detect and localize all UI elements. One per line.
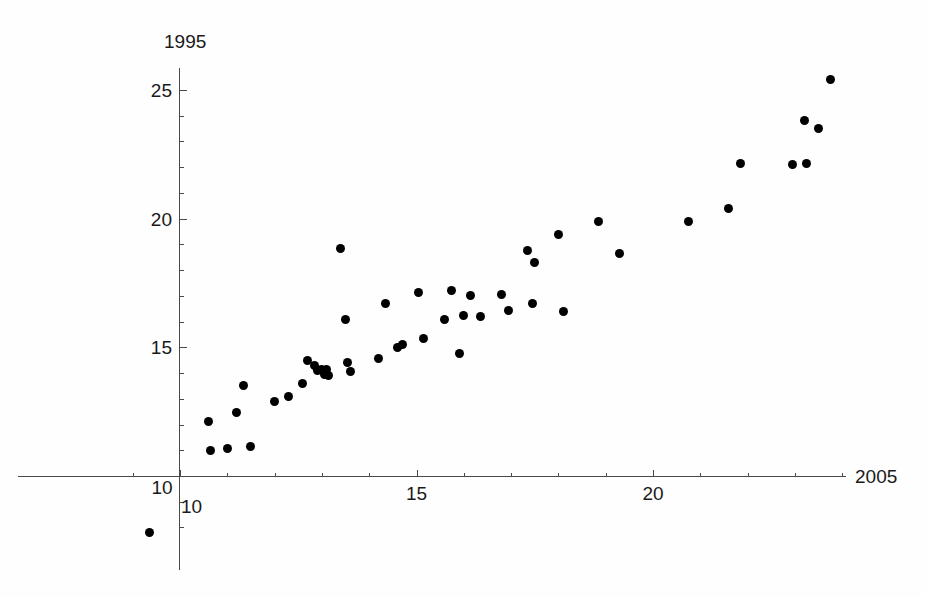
data-point: [341, 315, 350, 324]
data-point: [398, 340, 407, 349]
data-point: [324, 371, 333, 380]
data-point: [684, 217, 693, 226]
data-point: [814, 124, 823, 133]
data-point: [559, 307, 568, 316]
data-point: [528, 299, 537, 308]
data-point: [440, 315, 449, 324]
data-point: [374, 354, 383, 363]
data-point: [298, 379, 307, 388]
scatter-plot-figure: 10152010152025 1995 2005: [0, 0, 926, 597]
data-point: [459, 311, 468, 320]
data-point: [497, 290, 506, 299]
data-point: [346, 367, 355, 376]
data-point: [736, 159, 745, 168]
data-point: [554, 230, 563, 239]
data-point: [336, 244, 345, 253]
data-point: [246, 442, 255, 451]
data-point: [239, 381, 248, 390]
data-point: [447, 286, 456, 295]
data-point: [615, 249, 624, 258]
data-point: [419, 334, 428, 343]
data-point: [523, 246, 532, 255]
data-point: [381, 299, 390, 308]
data-point: [476, 312, 485, 321]
data-point: [594, 217, 603, 226]
data-point: [802, 159, 811, 168]
data-point: [826, 75, 835, 84]
data-point: [223, 444, 232, 453]
data-points-layer: [0, 0, 926, 597]
data-point: [232, 408, 241, 417]
data-point: [504, 306, 513, 315]
data-point: [414, 288, 423, 297]
data-point: [284, 392, 293, 401]
data-point: [343, 358, 352, 367]
data-point: [800, 116, 809, 125]
data-point: [455, 349, 464, 358]
data-point: [204, 417, 213, 426]
data-point: [724, 204, 733, 213]
data-point: [206, 446, 215, 455]
data-point: [530, 258, 539, 267]
data-point: [145, 528, 154, 537]
data-point: [788, 160, 797, 169]
data-point: [466, 291, 475, 300]
data-point: [270, 397, 279, 406]
